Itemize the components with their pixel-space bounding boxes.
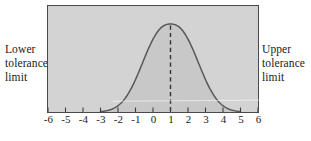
- tolerance-limits-figure: Lower tolerance limit Upper tolerance li…: [0, 0, 311, 141]
- plot-area: [47, 5, 259, 113]
- x-tick-label: -4: [79, 113, 88, 125]
- x-tick-label: -6: [44, 113, 53, 125]
- x-tick-label: -1: [131, 113, 140, 125]
- bell-curve-area: [101, 24, 241, 112]
- x-tick-label: 1: [168, 113, 174, 125]
- x-tick-label: -3: [96, 113, 105, 125]
- x-axis-tick-labels: -6-5-4-3-2-10123456: [0, 113, 311, 129]
- x-tick-label: 3: [203, 113, 209, 125]
- x-tick-label: 0: [151, 113, 157, 125]
- x-tick-label: 5: [238, 113, 244, 125]
- x-tick-label: -2: [114, 113, 123, 125]
- upper-tolerance-label: Upper tolerance limit: [262, 42, 311, 84]
- x-tick-label: 6: [256, 113, 262, 125]
- x-tick-label: 4: [221, 113, 227, 125]
- x-tick-label: -5: [61, 113, 70, 125]
- distribution-plot-svg: [48, 6, 258, 112]
- x-tick-label: 2: [186, 113, 192, 125]
